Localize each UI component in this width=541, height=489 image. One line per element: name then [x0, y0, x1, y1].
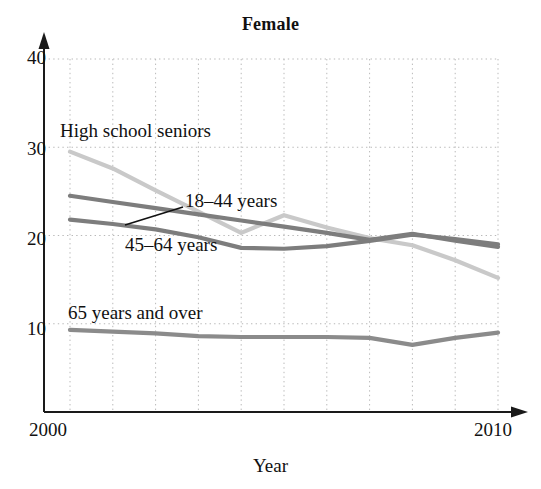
- y-tick-label-30: 30: [6, 138, 46, 160]
- series-line: [70, 330, 498, 345]
- series-label-18-44-years: 18–44 years: [185, 190, 277, 212]
- series-label-45-64-years: 45–64 years: [125, 234, 217, 256]
- line-chart: [0, 0, 541, 489]
- chart-page: Female 40 30 20 10 2000 2010 Year High s…: [0, 0, 541, 489]
- x-tick-label-2010: 2010: [474, 419, 512, 441]
- y-tick-label-20: 20: [6, 228, 46, 250]
- y-tick-label-40: 40: [6, 47, 46, 69]
- x-axis-arrowhead: [511, 407, 528, 418]
- series-label-high-school-seniors: High school seniors: [60, 120, 211, 142]
- y-tick-label-10: 10: [6, 318, 46, 340]
- x-axis-title: Year: [0, 455, 541, 477]
- x-tick-label-2000: 2000: [29, 419, 67, 441]
- series-label-65-years-and-over: 65 years and over: [68, 302, 203, 324]
